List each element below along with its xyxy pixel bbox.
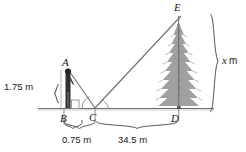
geometry-diagram: A B C D E 1.75 m 0.75 m 34.5 m xm <box>0 0 246 152</box>
brace-cd-main <box>96 121 178 129</box>
point-label-b: B <box>60 113 67 124</box>
sight-line-a-c <box>69 70 96 108</box>
point-label-e: E <box>174 2 181 13</box>
dimension-label-bc: 0.75 m <box>62 135 91 145</box>
diagram-canvas <box>0 0 246 152</box>
point-label-c: C <box>89 112 96 123</box>
brace-person-height <box>55 84 60 102</box>
unknown-unit: m <box>229 55 237 66</box>
dimension-label-person-height: 1.75 m <box>4 82 33 92</box>
dimension-label-unknown-height: xm <box>222 55 237 66</box>
dimension-label-cd: 34.5 m <box>118 135 147 145</box>
unknown-variable: x <box>222 54 227 66</box>
point-label-a: A <box>62 57 69 68</box>
point-label-d: D <box>171 113 179 124</box>
brace-x-height <box>210 14 218 112</box>
